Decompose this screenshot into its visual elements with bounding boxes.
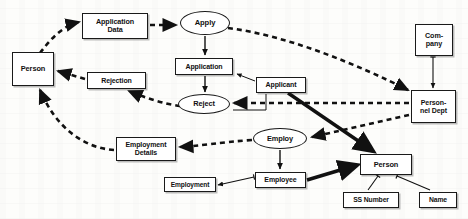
- edge-applicant-to-application: [237, 74, 255, 81]
- node-label-application: Application: [185, 63, 222, 71]
- node-label-applicant: Applicant: [266, 81, 297, 89]
- node-label-ss-number: SS Number: [353, 196, 389, 203]
- node-label-employee: Employee: [264, 176, 296, 184]
- node-applicant[interactable]: Applicant: [256, 77, 306, 93]
- node-company[interactable]: Com- pany: [415, 24, 453, 56]
- node-label-employment: Employment: [171, 181, 210, 188]
- node-label-person-right: Person: [374, 161, 398, 169]
- edge-person-to-application-data: [40, 22, 79, 53]
- edge-person-right-to-name: [397, 176, 430, 190]
- node-rejection[interactable]: Rejection: [87, 72, 146, 89]
- node-label-apply: Apply: [195, 19, 216, 27]
- diagram-canvas: Application DataApplyCom- panyPersonAppl…: [0, 0, 468, 219]
- node-label-employ: Employ: [267, 135, 293, 143]
- node-reject[interactable]: Reject: [178, 94, 230, 114]
- node-apply[interactable]: Apply: [180, 11, 230, 35]
- edge-reject-to-employment-details: [180, 140, 252, 147]
- edge-reject-to-rejection: [129, 91, 180, 106]
- node-person-right[interactable]: Person: [360, 154, 412, 175]
- node-label-name: Name: [429, 196, 447, 203]
- edge-rejection-to-person: [58, 71, 85, 79]
- node-employ[interactable]: Employ: [253, 128, 307, 149]
- node-employee[interactable]: Employee: [255, 172, 306, 188]
- node-label-company: Com- pany: [425, 32, 443, 48]
- node-label-person-left: Person: [21, 65, 45, 73]
- node-label-reject: Reject: [193, 100, 215, 108]
- node-label-personnel-dept: Person- nel Dept: [420, 99, 447, 114]
- node-ss-number[interactable]: SS Number: [343, 192, 399, 208]
- node-employment-details[interactable]: Employment Details: [116, 137, 176, 161]
- node-name[interactable]: Name: [419, 192, 457, 208]
- node-application[interactable]: Application: [175, 58, 233, 75]
- node-label-rejection: Rejection: [101, 77, 132, 85]
- edge-person-right-to-ss-number: [368, 176, 378, 190]
- node-person-left[interactable]: Person: [12, 52, 54, 86]
- edge-employee-to-person-right: [307, 165, 357, 180]
- diagram-edges-layer: [0, 0, 468, 219]
- node-employment[interactable]: Employment: [164, 177, 216, 192]
- node-application-data[interactable]: Application Data: [82, 13, 148, 39]
- edge-employment-details-to-person: [40, 90, 114, 150]
- edge-employment-to-employee: [218, 177, 254, 185]
- node-label-employment-details: Employment Details: [125, 141, 166, 156]
- node-label-application-data: Application Data: [96, 18, 134, 34]
- node-personnel-dept[interactable]: Person- nel Dept: [411, 90, 456, 123]
